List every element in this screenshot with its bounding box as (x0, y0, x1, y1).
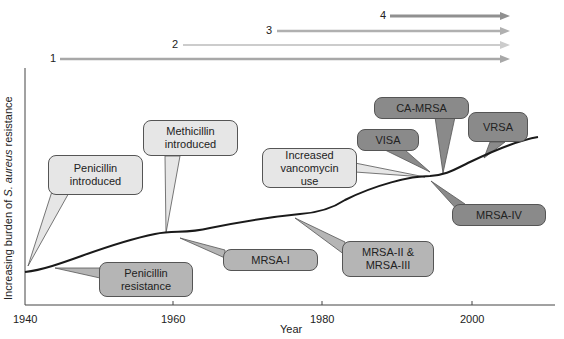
x-axis-label: Year (280, 323, 302, 335)
wave-2-label: 2 (172, 38, 178, 50)
callout-methicillin-introduced: Methicillin introduced (143, 120, 238, 156)
x-tick-1940: 1940 (13, 313, 37, 325)
wave-1-label: 1 (50, 52, 56, 64)
wave-arrows (60, 12, 510, 63)
callout-vrsa: VRSA (468, 112, 528, 142)
x-tick-1960: 1960 (161, 313, 185, 325)
y-axis-label: Increasing burden of S. aureus resistanc… (2, 96, 14, 300)
wave-3-label: 3 (266, 24, 272, 36)
callout-increased-vancomycin-use: Increased vancomycin use (262, 148, 357, 188)
callout-mrsa-2-3: MRSA-II & MRSA-III (342, 241, 434, 277)
callout-penicillin-introduced: Penicillin introduced (48, 155, 143, 195)
x-tick-2000: 2000 (460, 313, 484, 325)
callout-visa: VISA (357, 129, 419, 151)
x-tick-1980: 1980 (310, 313, 334, 325)
callout-mrsa-1: MRSA-I (223, 249, 318, 271)
callout-ca-mrsa: CA-MRSA (374, 97, 469, 119)
callout-penicillin-resistance: Penicillin resistance (99, 262, 193, 297)
callout-mrsa-4: MRSA-IV (452, 204, 546, 226)
wave-4-label: 4 (380, 9, 386, 21)
